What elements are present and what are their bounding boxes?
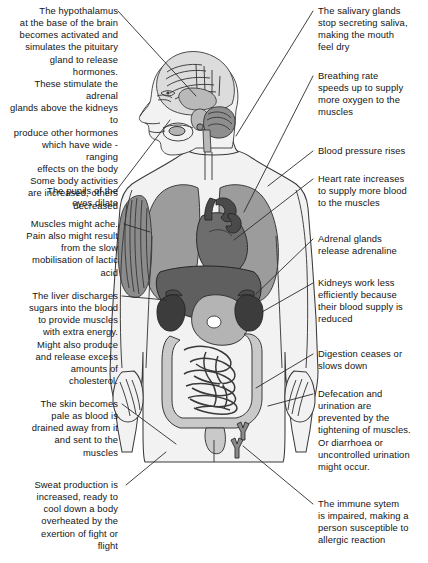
- note-digestion: Digestion ceases or slows down: [318, 348, 426, 372]
- note-skin: The skin becomes pale as blood is draine…: [4, 398, 118, 459]
- kidney-left: [157, 295, 185, 331]
- note-pupils: The pupils of the eyes dilate: [8, 185, 118, 209]
- note-salivary: The salivary glands stop secreting saliv…: [318, 5, 426, 54]
- note-liver: The liver discharges sugars into the blo…: [4, 290, 118, 387]
- eye-pupil: [166, 91, 169, 94]
- note-kidneys: Kidneys work less efficiently because th…: [318, 277, 426, 326]
- tongue: [169, 127, 185, 136]
- note-breathing: Breathing rate speeds up to supply more …: [318, 70, 426, 119]
- hand-right: [285, 371, 315, 422]
- note-blood-pressure: Blood pressure rises: [318, 145, 426, 157]
- note-adrenal: Adrenal glands release adrenaline: [318, 233, 426, 257]
- note-heart-rate: Heart rate increases to supply more bloo…: [318, 173, 428, 209]
- kidney-right: [235, 295, 263, 331]
- note-hypothalamus: The hypothalamus at the base of the brai…: [8, 5, 118, 212]
- stomach-highlight: [207, 316, 221, 328]
- leader-salivary: [236, 11, 313, 136]
- note-muscles: Muscles might ache. Pain also might resu…: [4, 218, 118, 279]
- intestine-highlight: [219, 383, 223, 387]
- note-immune: The immune sytem is impaired, making a p…: [318, 498, 428, 547]
- note-defecation: Defecation and urination are prevented b…: [318, 388, 428, 473]
- arm-muscle: [118, 195, 152, 297]
- note-sweat: Sweat production is increased, ready to …: [4, 479, 118, 552]
- pituitary-gland: [197, 124, 203, 130]
